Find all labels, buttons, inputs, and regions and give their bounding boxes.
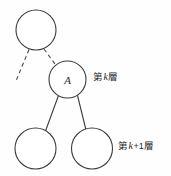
edge-parent-to-left-dashed bbox=[16, 50, 29, 82]
edge-a-to-child-right bbox=[78, 96, 87, 131]
layer-k-suffix: 層 bbox=[108, 71, 118, 82]
node-a-label: A bbox=[63, 74, 71, 86]
layer-k-label: 第k層 bbox=[93, 72, 118, 82]
child-right-node bbox=[72, 128, 113, 169]
tree-layer-diagram: A 第k層 第k+1層 bbox=[0, 0, 171, 176]
parent-node bbox=[16, 10, 56, 50]
layer-k-plus-1-operator: +1 bbox=[133, 141, 143, 151]
edge-parent-to-a-dashed bbox=[44, 49, 55, 64]
edge-a-to-child-left bbox=[46, 96, 59, 132]
child-left-node bbox=[15, 128, 56, 169]
layer-k-plus-1-label: 第k+1層 bbox=[118, 141, 154, 151]
layer-k-plus-1-prefix: 第 bbox=[118, 140, 128, 151]
layer-k-prefix: 第 bbox=[93, 71, 103, 82]
layer-k-plus-1-suffix: 層 bbox=[144, 140, 154, 151]
